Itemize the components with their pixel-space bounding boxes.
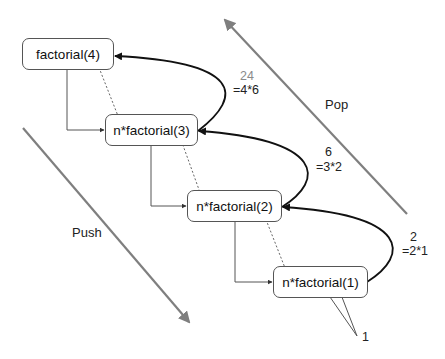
- node-label: factorial(4): [36, 47, 100, 62]
- base-case-value: 1: [362, 330, 369, 345]
- return-expr-2: =2*1: [402, 244, 428, 259]
- call-connector-4-3: [67, 70, 104, 130]
- node-factorial-2: n*factorial(2): [187, 190, 282, 222]
- dotted-link-3-2: [180, 137, 202, 198]
- base-case-arrow: [330, 292, 357, 336]
- node-label: n*factorial(1): [282, 275, 359, 290]
- node-factorial-4: factorial(4): [22, 38, 114, 70]
- push-arrow: [23, 128, 189, 322]
- node-label: n*factorial(3): [113, 123, 190, 138]
- pop-label: Pop: [325, 97, 348, 112]
- push-label: Push: [72, 225, 102, 240]
- return-value-24: 24: [240, 69, 254, 84]
- return-value-6: 6: [325, 145, 332, 160]
- return-value-2: 2: [410, 230, 417, 245]
- call-connector-3-2: [151, 145, 186, 206]
- return-expr-24: =4*6: [233, 83, 259, 98]
- node-label: n*factorial(2): [196, 199, 273, 214]
- return-expr-6: =3*2: [316, 160, 342, 175]
- pop-arrow: [225, 20, 407, 214]
- call-connector-2-1: [235, 221, 272, 282]
- node-factorial-1: n*factorial(1): [273, 266, 368, 298]
- node-factorial-3: n*factorial(3): [105, 114, 198, 146]
